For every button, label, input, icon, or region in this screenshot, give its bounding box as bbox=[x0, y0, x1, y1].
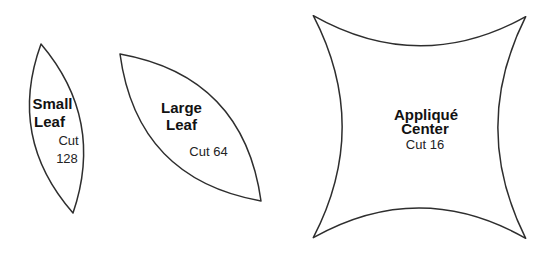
large-leaf-cut-label: Cut 64 bbox=[189, 144, 227, 159]
quilt-template-diagram: Small Leaf Cut 128 Large Leaf Cut 64 App… bbox=[0, 0, 554, 254]
applique-center-title-line2: Center bbox=[401, 120, 449, 137]
large-leaf-title-line2: Leaf bbox=[166, 116, 198, 133]
large-leaf-title-line1: Large bbox=[161, 99, 202, 116]
applique-center-cut-label: Cut 16 bbox=[406, 137, 444, 152]
pattern-svg: Small Leaf Cut 128 Large Leaf Cut 64 App… bbox=[0, 0, 554, 254]
small-leaf-title-line2: Leaf bbox=[34, 113, 66, 130]
small-leaf-cut-line2: 128 bbox=[56, 151, 78, 166]
small-leaf-cut-line1: Cut bbox=[58, 133, 79, 148]
small-leaf-title-line1: Small bbox=[32, 95, 72, 112]
